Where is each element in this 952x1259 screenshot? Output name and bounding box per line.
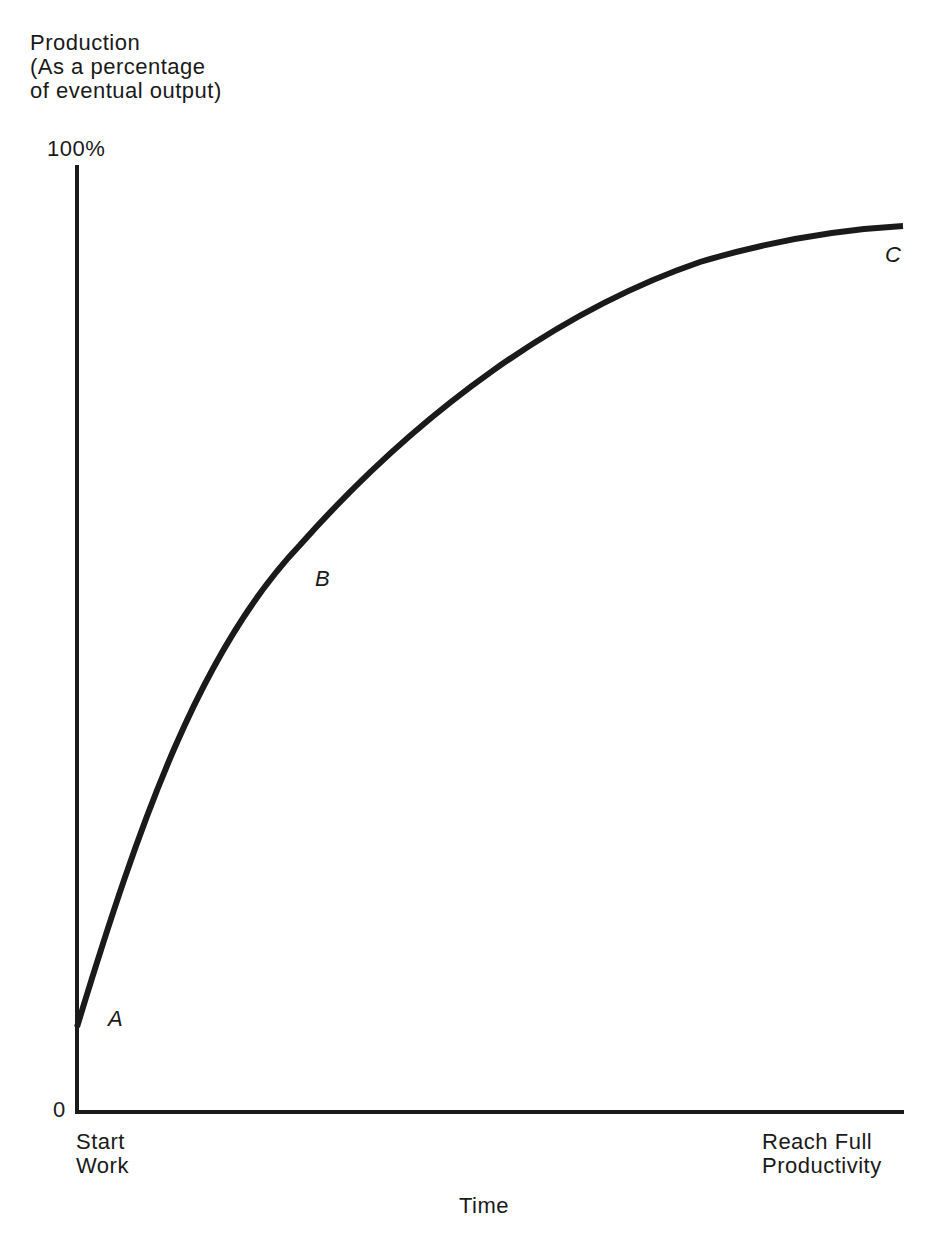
x-tick-end-line-2: Productivity [762,1154,882,1178]
x-tick-start-line-2: Work [76,1154,129,1178]
x-tick-full-productivity: Reach Full Productivity [762,1130,882,1178]
x-tick-start-work: Start Work [76,1130,129,1178]
x-axis-title: Time [459,1193,509,1219]
point-label-a: A [108,1006,123,1032]
learning-curve-line [77,226,903,1027]
x-tick-start-line-1: Start [76,1130,129,1154]
x-tick-end-line-1: Reach Full [762,1130,882,1154]
point-label-b: B [315,566,330,592]
point-label-c: C [885,242,901,268]
chart-plot [0,0,952,1259]
